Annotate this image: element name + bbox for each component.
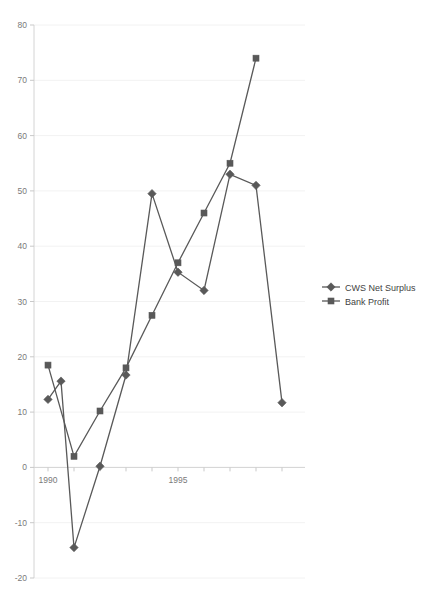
chart-legend: CWS Net SurplusBank Profit bbox=[322, 283, 416, 307]
y-axis-tick-label: 0 bbox=[22, 462, 27, 472]
x-axis-tick-label: 1990 bbox=[39, 475, 58, 485]
series-line bbox=[48, 58, 256, 456]
x-tick-marks-group bbox=[48, 467, 282, 471]
legend-item[interactable]: CWS Net Surplus bbox=[322, 283, 416, 293]
y-axis-tick-label: 30 bbox=[18, 297, 28, 307]
diamond-marker-icon bbox=[44, 395, 52, 403]
line-chart: -20-1001020304050607080 19901995 CWS Net… bbox=[0, 0, 437, 597]
y-axis-tick-label: 50 bbox=[18, 186, 28, 196]
y-axis-tick-label: 20 bbox=[18, 352, 28, 362]
y-axis-tick-label: 40 bbox=[18, 241, 28, 251]
diamond-marker-icon bbox=[57, 377, 65, 385]
y-axis-tick-label: -20 bbox=[15, 573, 28, 583]
series-layer bbox=[44, 55, 286, 552]
y-axis-tick-label: 70 bbox=[18, 75, 28, 85]
square-marker-icon bbox=[253, 55, 259, 61]
y-axis-tick-label: 60 bbox=[18, 131, 28, 141]
diamond-marker-icon bbox=[226, 170, 234, 178]
square-marker-icon bbox=[45, 362, 51, 368]
square-marker-icon bbox=[227, 160, 233, 166]
chart-container: -20-1001020304050607080 19901995 CWS Net… bbox=[0, 0, 437, 597]
series-bank-profit bbox=[45, 55, 259, 459]
square-marker-icon bbox=[97, 408, 103, 414]
square-marker-icon bbox=[149, 312, 155, 318]
square-marker-icon bbox=[123, 365, 129, 371]
diamond-marker-icon bbox=[200, 286, 208, 294]
square-marker-icon bbox=[175, 260, 181, 266]
square-marker-icon bbox=[71, 453, 77, 459]
legend-item[interactable]: Bank Profit bbox=[322, 297, 390, 307]
diamond-marker-icon bbox=[327, 283, 335, 291]
series-line bbox=[48, 174, 282, 547]
y-axis-tick-label: 10 bbox=[18, 407, 28, 417]
y-axis-tick-label: -10 bbox=[15, 518, 28, 528]
series-cws-net-surplus bbox=[44, 170, 286, 552]
gridlines-group bbox=[34, 25, 305, 578]
y-axis-labels-group: -20-1001020304050607080 bbox=[15, 20, 28, 583]
diamond-marker-icon bbox=[70, 543, 78, 551]
legend-item-label: Bank Profit bbox=[345, 297, 390, 307]
y-axis-tick-label: 80 bbox=[18, 20, 28, 30]
diamond-marker-icon bbox=[96, 462, 104, 470]
x-axis-tick-label: 1995 bbox=[169, 475, 188, 485]
legend-item-label: CWS Net Surplus bbox=[345, 283, 416, 293]
square-marker-icon bbox=[201, 210, 207, 216]
x-axis-labels-group: 19901995 bbox=[39, 475, 188, 485]
diamond-marker-icon bbox=[252, 181, 260, 189]
square-marker-icon bbox=[328, 298, 334, 304]
y-tick-marks-group bbox=[30, 25, 34, 578]
diamond-marker-icon bbox=[278, 398, 286, 406]
